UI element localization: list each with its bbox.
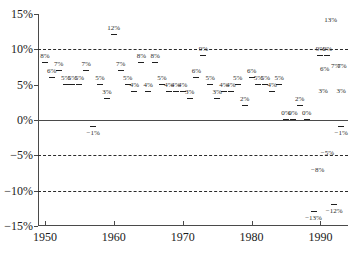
point-marker: [104, 98, 110, 99]
point-value-label: 5%: [206, 75, 215, 82]
point-marker: [111, 34, 117, 35]
y-tick-label: 5%: [17, 79, 33, 91]
point-value-label: −1%: [86, 130, 99, 137]
point-value-label: 6%: [192, 68, 201, 75]
point-value-label: −1%: [334, 130, 347, 137]
point-marker: [228, 91, 234, 92]
y-tick-mark: [34, 191, 38, 192]
point-marker: [290, 119, 296, 120]
point-value-label: 3%: [102, 89, 111, 96]
point-value-label: 5%: [233, 75, 242, 82]
annotation-label: 3%: [336, 88, 345, 95]
point-marker: [131, 91, 137, 92]
point-marker: [56, 70, 62, 71]
point-value-label: 3%: [185, 89, 194, 96]
point-marker: [235, 84, 241, 85]
y-tick-mark: [34, 120, 38, 121]
point-marker: [297, 105, 303, 106]
y-tick-label: −5%: [10, 149, 33, 161]
zero-baseline: [38, 120, 348, 121]
x-tick-mark: [45, 221, 46, 226]
annotation-label: 6%: [320, 66, 329, 73]
plot-area: 15%10%5%0%−5%−10%−15% 195019601970198019…: [38, 14, 348, 226]
point-marker: [76, 84, 82, 85]
annotation-label: −5%: [321, 150, 334, 157]
x-tick-mark: [114, 221, 115, 226]
point-value-label: 5%: [274, 75, 283, 82]
point-marker: [166, 91, 172, 92]
y-tick-label: −15%: [4, 220, 33, 232]
point-value-label: 0%: [288, 110, 297, 117]
y-tick-label: 0%: [17, 114, 33, 126]
point-marker: [242, 105, 248, 106]
point-value-label: 7%: [116, 61, 125, 68]
point-marker: [200, 55, 206, 56]
point-marker: [187, 98, 193, 99]
point-marker: [173, 91, 179, 92]
x-tick-label: 1970: [171, 231, 195, 243]
x-tick-mark: [183, 221, 184, 226]
point-marker: [90, 126, 96, 127]
annotation-label: 7%: [337, 63, 346, 70]
point-marker: [193, 77, 199, 78]
point-value-label: 2%: [240, 96, 249, 103]
point-value-label: −13%: [305, 215, 322, 222]
annotation-label: −8%: [311, 167, 324, 174]
point-marker: [317, 55, 323, 56]
point-value-label: 7%: [82, 61, 91, 68]
y-tick-mark: [34, 14, 38, 15]
point-marker: [138, 62, 144, 63]
y-tick-mark: [34, 49, 38, 50]
y-tick-label: −10%: [4, 185, 33, 197]
point-marker: [207, 84, 213, 85]
x-tick-label: 1990: [308, 231, 332, 243]
point-value-label: 8%: [40, 53, 49, 60]
point-marker: [311, 211, 317, 212]
point-value-label: −12%: [326, 208, 343, 215]
annotation-label: 13%: [324, 17, 337, 24]
point-value-label: 4%: [130, 82, 139, 89]
x-tick-label: 1960: [102, 231, 126, 243]
point-value-label: 7%: [54, 61, 63, 68]
point-marker: [63, 84, 69, 85]
point-value-label: 2%: [295, 96, 304, 103]
point-value-label: 9%: [199, 46, 208, 53]
x-tick-label: 1980: [240, 231, 264, 243]
point-value-label: 4%: [144, 82, 153, 89]
y-tick-mark: [34, 155, 38, 156]
gridline-10: [38, 49, 348, 50]
point-value-label: 5%: [75, 75, 84, 82]
point-value-label: 8%: [137, 53, 146, 60]
x-tick-mark: [252, 221, 253, 226]
point-marker: [83, 70, 89, 71]
gridline-neg10: [38, 191, 348, 192]
point-marker: [304, 119, 310, 120]
point-marker: [269, 91, 275, 92]
point-value-label: 5%: [95, 75, 104, 82]
x-axis-line: [38, 225, 348, 226]
point-marker: [255, 84, 261, 85]
gridline-neg5: [38, 155, 348, 156]
y-tick-mark: [34, 85, 38, 86]
point-marker: [331, 204, 337, 205]
y-tick-mark: [34, 226, 38, 227]
point-marker: [214, 98, 220, 99]
point-marker: [152, 62, 158, 63]
point-value-label: 9%: [323, 46, 332, 53]
point-marker: [221, 91, 227, 92]
point-value-label: 8%: [150, 53, 159, 60]
point-value-label: 0%: [302, 110, 311, 117]
y-tick-label: 15%: [11, 8, 33, 20]
chart-container: 15%10%5%0%−5%−10%−15% 195019601970198019…: [0, 0, 354, 257]
point-marker: [324, 55, 330, 56]
annotation-label: 3%: [319, 88, 328, 95]
point-marker: [97, 84, 103, 85]
x-tick-label: 1950: [33, 231, 57, 243]
point-marker: [118, 70, 124, 71]
point-marker: [338, 126, 344, 127]
point-marker: [69, 84, 75, 85]
point-marker: [49, 77, 55, 78]
point-value-label: 12%: [107, 25, 120, 32]
y-tick-label: 10%: [11, 43, 33, 55]
point-marker: [276, 84, 282, 85]
